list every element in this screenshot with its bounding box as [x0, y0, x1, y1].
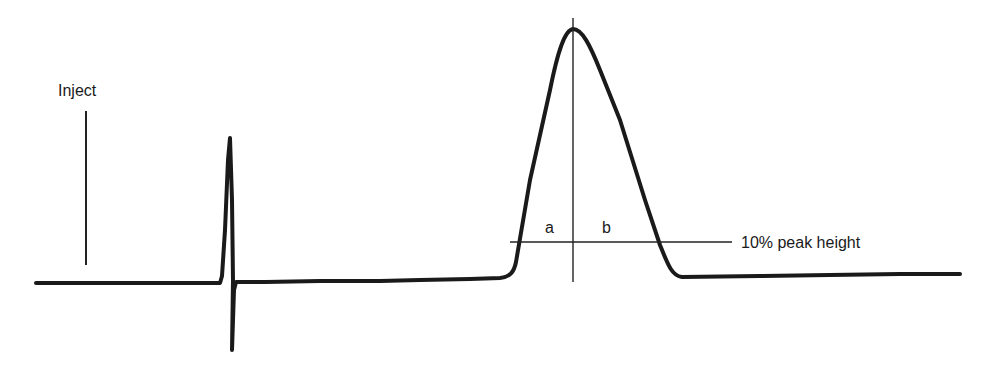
inject-label: Inject [58, 82, 97, 99]
chromatogram-trace [36, 29, 960, 350]
front-half-width-label: a [545, 219, 554, 236]
back-half-width-label: b [602, 219, 611, 236]
ten-percent-label: 10% peak height [741, 234, 861, 251]
chromatogram-diagram: Inject 10% peak height a b [0, 0, 990, 373]
